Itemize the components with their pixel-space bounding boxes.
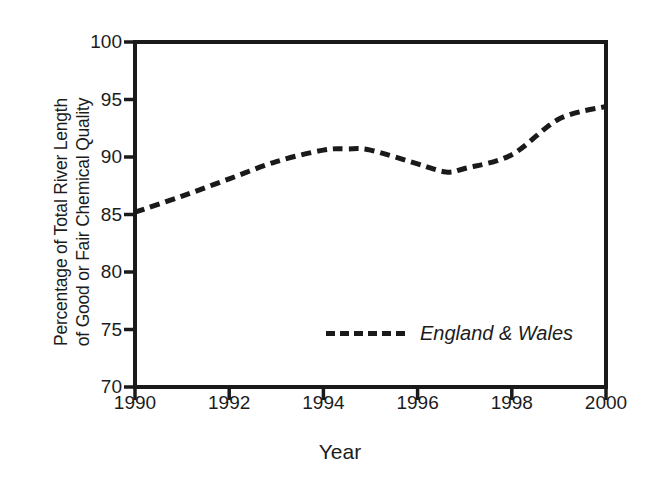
legend-swatch-dashed-line — [326, 331, 408, 336]
x-axis-title: Year — [0, 440, 645, 464]
chart-legend: England & Wales — [326, 322, 573, 345]
legend-label-england-wales: England & Wales — [420, 322, 573, 345]
x-axis-title-text: Year — [319, 440, 361, 464]
plot-area — [0, 0, 645, 492]
chart-figure: Percentage of Total River Length of Good… — [0, 0, 645, 492]
data-line-england-wales — [135, 106, 606, 212]
